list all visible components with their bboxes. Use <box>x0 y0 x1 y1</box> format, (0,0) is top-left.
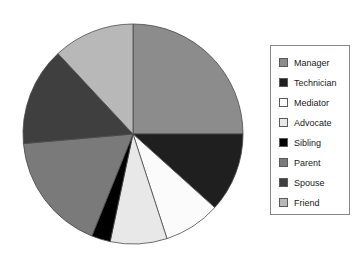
legend-item-advocate[interactable]: Advocate <box>279 113 349 132</box>
legend-swatch-sibling <box>279 138 288 147</box>
pie-slice-manager[interactable] <box>133 24 243 134</box>
legend-swatch-friend <box>279 198 288 207</box>
legend-item-mediator[interactable]: Mediator <box>279 93 349 112</box>
legend-swatch-technician <box>279 78 288 87</box>
pie-slice-group <box>23 24 243 244</box>
legend-label-manager: Manager <box>294 58 330 68</box>
legend-swatch-parent <box>279 158 288 167</box>
chart-legend: Manager Technician Mediator Advocate Sib… <box>270 45 350 215</box>
legend-item-technician[interactable]: Technician <box>279 73 349 92</box>
legend-label-technician: Technician <box>294 78 337 88</box>
legend-label-mediator: Mediator <box>294 98 329 108</box>
legend-swatch-mediator <box>279 98 288 107</box>
legend-label-sibling: Sibling <box>294 138 321 148</box>
legend-item-friend[interactable]: Friend <box>279 193 349 212</box>
legend-label-friend: Friend <box>294 198 320 208</box>
legend-swatch-manager <box>279 58 288 67</box>
legend-item-parent[interactable]: Parent <box>279 153 349 172</box>
legend-label-spouse: Spouse <box>294 178 325 188</box>
legend-swatch-advocate <box>279 118 288 127</box>
legend-swatch-spouse <box>279 178 288 187</box>
legend-label-advocate: Advocate <box>294 118 332 128</box>
legend-item-sibling[interactable]: Sibling <box>279 133 349 152</box>
pie-chart-figure: Manager Technician Mediator Advocate Sib… <box>0 0 359 267</box>
legend-label-parent: Parent <box>294 158 321 168</box>
legend-item-spouse[interactable]: Spouse <box>279 173 349 192</box>
legend-item-manager[interactable]: Manager <box>279 53 349 72</box>
